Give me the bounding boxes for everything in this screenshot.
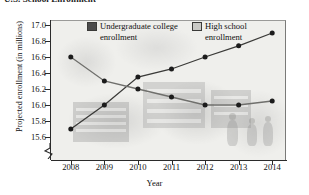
x-tick-mark: [104, 160, 105, 165]
x-tick-mark: [239, 160, 240, 165]
y-tick-mark: [45, 41, 51, 42]
y-tick-mark: [45, 25, 51, 26]
chart-figure: U.S. School Enrollment Projected enrollm…: [0, 0, 309, 195]
data-point: [102, 103, 107, 108]
y-tick-label: 16.4: [18, 69, 46, 77]
legend-swatch-high-school: [192, 22, 202, 31]
x-tick-mark: [272, 160, 273, 165]
y-axis-break-icon: [43, 143, 55, 159]
data-point: [102, 79, 107, 84]
y-tick-label: 16.8: [18, 37, 46, 45]
data-point: [135, 87, 140, 92]
y-tick-label: 17.0: [18, 21, 46, 29]
y-tick-mark: [45, 89, 51, 90]
data-point: [270, 99, 275, 104]
data-point: [169, 95, 174, 100]
y-tick-label: 15.8: [18, 117, 46, 125]
x-tick-mark: [71, 160, 72, 165]
y-tick-mark: [45, 121, 51, 122]
data-point: [203, 103, 208, 108]
chart-legend: Undergraduate college enrollment High sc…: [51, 20, 286, 64]
y-tick-label: 15.6: [18, 133, 46, 141]
y-tick-mark: [45, 73, 51, 74]
y-tick-mark: [45, 105, 51, 106]
legend-swatch-undergraduate: [87, 22, 97, 31]
x-axis-line: [51, 160, 287, 161]
y-tick-mark: [45, 137, 51, 138]
y-tick-label: 16.6: [18, 53, 46, 61]
data-point: [68, 127, 73, 132]
data-point: [236, 103, 241, 108]
x-tick-mark: [138, 160, 139, 165]
y-tick-label: 16.2: [18, 85, 46, 93]
data-point: [169, 67, 174, 72]
x-tick-mark: [205, 160, 206, 165]
plot-area: Undergraduate college enrollment High sc…: [51, 20, 286, 160]
y-tick-label: 16.0: [18, 101, 46, 109]
x-axis-tick-labels: 2008200920102011201220132014: [0, 162, 309, 174]
x-tick-mark: [172, 160, 173, 165]
legend-label-undergraduate: Undergraduate college enrollment: [100, 21, 180, 42]
data-point: [135, 75, 140, 80]
y-tick-mark: [45, 57, 51, 58]
x-axis-title: Year: [0, 178, 309, 188]
legend-label-high-school: High school enrollment: [205, 21, 275, 42]
